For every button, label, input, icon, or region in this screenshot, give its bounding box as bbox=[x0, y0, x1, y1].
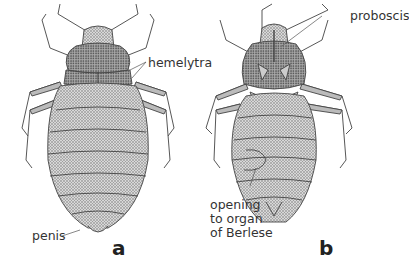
panel-letter-a: a bbox=[112, 236, 126, 260]
label-organ-of-berlese: opening to organ of Berlese bbox=[210, 198, 258, 240]
bedbug-dorsal-view bbox=[22, 4, 174, 236]
panel-letter-b: b bbox=[319, 236, 333, 260]
label-organ-line-2: to organ bbox=[210, 212, 258, 226]
label-hemelytra: hemelytra bbox=[148, 56, 212, 70]
bedbug-ventral-view bbox=[206, 4, 352, 222]
label-organ-line-1: opening bbox=[210, 198, 258, 212]
label-organ-line-3: of Berlese bbox=[210, 226, 258, 240]
label-penis: penis bbox=[32, 229, 66, 243]
label-proboscis: proboscis bbox=[350, 9, 409, 23]
